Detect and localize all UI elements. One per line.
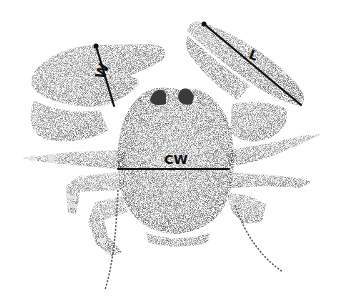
- crab-drawing: W L CW: [0, 0, 340, 308]
- carapace: [118, 88, 234, 247]
- label-carapace-width: CW: [164, 152, 188, 167]
- crab-illustration: W L CW: [0, 0, 340, 308]
- chela-width-endpoint: [94, 44, 99, 49]
- chela-length-endpoint: [202, 22, 207, 27]
- left-walking-legs: [22, 150, 128, 256]
- right-walking-legs: [225, 134, 322, 224]
